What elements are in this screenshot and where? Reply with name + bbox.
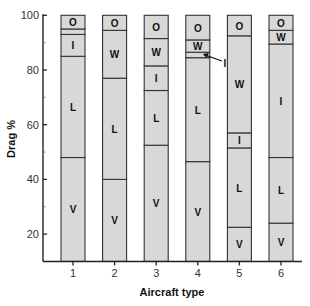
- bar-2: VLWO: [103, 15, 127, 261]
- segment-w: [61, 29, 85, 34]
- bar-6: VLIWO: [269, 15, 293, 261]
- segment-label: L: [70, 102, 76, 113]
- y-tick-label: 60: [27, 119, 39, 131]
- bar-4: VLIWO: [186, 15, 227, 261]
- segment-label: W: [110, 49, 120, 60]
- segment-label: V: [194, 207, 201, 218]
- x-tick-label: 2: [112, 267, 118, 279]
- segment-label: L: [153, 113, 159, 124]
- segment-label: W: [193, 41, 203, 52]
- segment-label: O: [277, 18, 285, 29]
- y-axis-title: Drag %: [5, 120, 17, 158]
- segment-label: O: [236, 21, 244, 32]
- y-tick-label: 20: [27, 228, 39, 240]
- segment-label: L: [236, 183, 242, 194]
- segment-label: W: [151, 47, 161, 58]
- segment-label: V: [70, 204, 77, 215]
- segment-label: O: [111, 18, 119, 29]
- segment-label: O: [69, 17, 77, 28]
- stacked-bar-chart: VLIOVLWOVLIWOVLIWOVLIWOVLIWO 20406080100…: [0, 0, 310, 306]
- segment-label: I: [223, 58, 226, 69]
- segment-label: O: [152, 22, 160, 33]
- segment-label: L: [195, 105, 201, 116]
- segment-label: L: [112, 124, 118, 135]
- segment-label: W: [276, 32, 286, 43]
- segment-label: W: [235, 79, 245, 90]
- bar-1: VLIO: [61, 15, 85, 261]
- segment-label: I: [155, 73, 158, 84]
- segment-label: V: [278, 237, 285, 248]
- y-tick-label: 80: [27, 64, 39, 76]
- segment-label: V: [236, 239, 243, 250]
- segment-label: L: [278, 185, 284, 196]
- x-tick-label: 4: [195, 267, 201, 279]
- x-tick-label: 1: [70, 267, 76, 279]
- x-tick-label: 5: [236, 267, 242, 279]
- bar-5: VLIWO: [227, 15, 251, 261]
- bars-group: VLIOVLWOVLIWOVLIWOVLIWOVLIWO: [61, 15, 293, 261]
- y-tick-label: 100: [21, 9, 39, 21]
- bar-3: VLIWO: [144, 15, 168, 261]
- x-tick-label: 6: [278, 267, 284, 279]
- segment-label: O: [194, 23, 202, 34]
- segment-label: I: [238, 135, 241, 146]
- y-tick-label: 40: [27, 173, 39, 185]
- segment-label: I: [280, 96, 283, 107]
- segment-label: V: [111, 215, 118, 226]
- segment-label: I: [72, 40, 75, 51]
- segment-label: V: [153, 198, 160, 209]
- x-axis-title: Aircraft type: [140, 286, 205, 298]
- x-tick-label: 3: [153, 267, 159, 279]
